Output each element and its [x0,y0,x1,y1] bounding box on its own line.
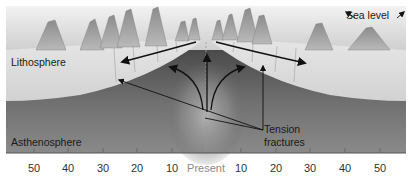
cross-section-graphic [0,0,410,182]
tick-left-20: 20 [131,162,143,174]
tick-present: Present [187,162,225,174]
tension-fractures-label-line1: Tension [264,123,300,135]
tension-fractures-label-line2: fractures [264,136,305,148]
asthenosphere-label: Asthenosphere [11,136,82,148]
tick-left-10: 10 [166,162,178,174]
tick-left-30: 30 [97,162,109,174]
lithosphere-label: Lithosphere [11,56,66,68]
tick-right-50: 50 [374,162,386,174]
tick-left-50: 50 [28,162,40,174]
tick-right-20: 20 [270,162,282,174]
tick-right-30: 30 [304,162,316,174]
seafloor-spreading-diagram: Sea level Lithosphere Asthenosphere Tens… [0,0,410,182]
sea-level-label: Sea level [346,9,389,21]
tick-right-40: 40 [339,162,351,174]
tick-right-10: 10 [235,162,247,174]
tick-left-40: 40 [62,162,74,174]
